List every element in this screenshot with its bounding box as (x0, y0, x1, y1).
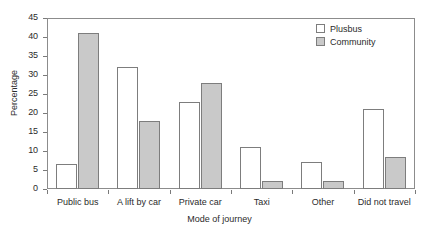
y-axis-tick-label: 5 (33, 165, 38, 174)
bar-community-did-not-travel (385, 157, 406, 189)
bar-group (231, 18, 292, 189)
bar-plusbus-private-car (179, 102, 200, 189)
bar-plusbus-did-not-travel (363, 109, 384, 189)
y-axis-tick-label: 10 (28, 146, 38, 155)
y-axis-tick-label: 20 (28, 108, 38, 117)
y-axis-tick-label: 45 (28, 13, 38, 22)
bar-community-other (323, 181, 344, 189)
legend: Plusbus Community (316, 22, 376, 48)
x-axis-tick (415, 190, 416, 194)
white-square-icon (316, 24, 325, 33)
x-axis-tick-label: Taxi (254, 197, 270, 208)
y-axis: Percentage 051015202530354045 (0, 0, 47, 239)
x-axis-title: Mode of journey (0, 214, 439, 224)
bar-plusbus-a-lift-by-car (117, 67, 138, 189)
bar-group (170, 18, 231, 189)
x-axis-tick (354, 190, 355, 194)
bar-plusbus-taxi (240, 147, 261, 189)
y-axis-tick-label: 40 (28, 32, 38, 41)
x-axis-tick-label: Private car (179, 197, 222, 208)
gray-square-icon (316, 37, 325, 46)
legend-label-plusbus: Plusbus (330, 24, 362, 34)
legend-item-plusbus: Plusbus (316, 22, 376, 35)
bar-group (47, 18, 108, 189)
y-axis-tick-label: 0 (33, 184, 38, 193)
bar-community-a-lift-by-car (139, 121, 160, 189)
y-axis-tick-label: 35 (28, 51, 38, 60)
x-axis-tick (47, 190, 48, 194)
y-axis-title: Percentage (9, 53, 19, 133)
x-axis-tick-label: A lift by car (117, 197, 161, 208)
x-axis-tick-label: Other (312, 197, 335, 208)
x-axis-tick-label: Public bus (57, 197, 99, 208)
x-axis-tick-label: Did not travel (358, 197, 411, 208)
y-axis-tick-label: 25 (28, 89, 38, 98)
x-axis-tick (292, 190, 293, 194)
bar-plusbus-other (301, 162, 322, 189)
legend-label-community: Community (330, 37, 376, 47)
y-axis-tick-label: 30 (28, 70, 38, 79)
y-axis-tick-label: 15 (28, 127, 38, 136)
x-axis-tick (170, 190, 171, 194)
bar-community-public-bus (78, 33, 99, 189)
bar-community-private-car (201, 83, 222, 189)
x-axis-tick (108, 190, 109, 194)
bar-plusbus-public-bus (56, 164, 77, 189)
bar-community-taxi (262, 181, 283, 189)
legend-item-community: Community (316, 35, 376, 48)
bar-chart: Percentage 051015202530354045 Mode of jo… (0, 0, 439, 239)
bar-group (108, 18, 169, 189)
x-axis-tick (231, 190, 232, 194)
